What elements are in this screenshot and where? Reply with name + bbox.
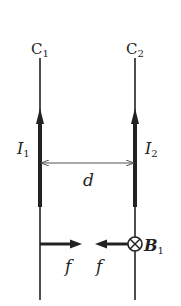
force-arrow-right <box>40 240 82 249</box>
current-arrow-up-icon <box>36 108 44 124</box>
current-i1-label: I1 <box>16 139 30 159</box>
force-label-right: f <box>94 256 105 276</box>
separation-label: d <box>83 170 94 190</box>
force-label-left: f <box>63 256 74 276</box>
field-b1-label: B1 <box>143 236 164 256</box>
wire-c1 <box>36 58 44 300</box>
current-arrow-up-icon <box>131 108 139 124</box>
force-arrow-left <box>95 240 128 249</box>
wire-c1-label: C1 <box>31 40 49 59</box>
wire-c2 <box>131 58 139 300</box>
parallel-wires-diagram: C1 C2 I1 I2 d f f B1 <box>0 0 181 306</box>
field-into-page-icon <box>128 237 142 251</box>
wire-c2-label: C2 <box>126 40 144 59</box>
current-i2-label: I2 <box>144 139 158 159</box>
